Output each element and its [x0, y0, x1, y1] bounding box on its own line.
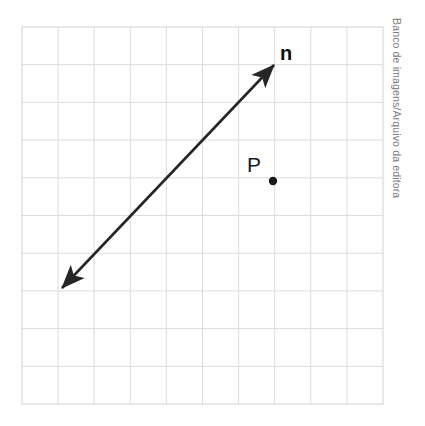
- point-p-marker: [269, 177, 277, 185]
- figure-canvas: n P Banco de imagens/Arquivo da editora: [0, 0, 425, 426]
- image-credit: Banco de imagens/Arquivo da editora: [389, 18, 405, 228]
- figure-background: [0, 0, 425, 426]
- point-p-label: P: [247, 153, 261, 176]
- line-n-label: n: [280, 42, 292, 64]
- geometry-figure-svg: n P: [0, 0, 425, 426]
